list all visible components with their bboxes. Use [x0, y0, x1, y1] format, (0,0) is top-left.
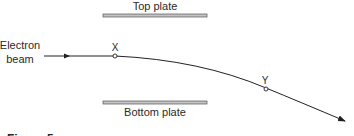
point-x-marker [113, 54, 117, 58]
bottom-plate [103, 101, 207, 104]
electron-deflection-diagram: Top plate Bottom plate Electron beam X Y… [0, 0, 354, 136]
point-y-marker [264, 87, 268, 91]
top-plate-label: Top plate [133, 0, 178, 12]
point-y-label: Y [262, 75, 269, 86]
beam-direction-arrow-icon [64, 54, 70, 59]
figure-caption: Figure 5 [7, 132, 54, 136]
electron-beam-label-line1: Electron [0, 39, 40, 51]
top-plate [103, 14, 207, 17]
point-x-label: X [112, 42, 119, 53]
electron-beam-label-line2: beam [6, 53, 34, 65]
bottom-plate-label: Bottom plate [124, 106, 186, 118]
